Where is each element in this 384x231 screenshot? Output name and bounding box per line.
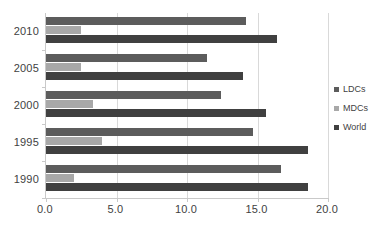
- bar-chart: LDCsMDCsWorld 0.05.010.015.020.020102005…: [0, 0, 384, 231]
- chart-legend: LDCsMDCsWorld: [334, 85, 368, 142]
- bar-group: [46, 54, 328, 84]
- gridline-x: [328, 13, 329, 198]
- legend-item-mdcs[interactable]: MDCs: [334, 104, 368, 113]
- legend-swatch-icon: [334, 87, 339, 92]
- bar-ldcs-1990: [46, 165, 281, 173]
- y-axis-label-1995: 1995: [0, 136, 39, 148]
- legend-item-world[interactable]: World: [334, 123, 368, 132]
- y-axis-label-2005: 2005: [0, 62, 39, 74]
- x-axis-label: 0.0: [25, 203, 65, 215]
- y-axis-label-2000: 2000: [0, 99, 39, 111]
- plot-area: [45, 13, 329, 199]
- y-axis-tick: [42, 161, 46, 162]
- chart-caption: [6, 222, 378, 231]
- x-axis-label: 5.0: [96, 203, 136, 215]
- bar-group: [46, 91, 328, 121]
- bar-mdcs-1995: [46, 137, 102, 145]
- bar-world-2005: [46, 72, 243, 80]
- y-axis-label-1990: 1990: [0, 173, 39, 185]
- bar-group: [46, 128, 328, 158]
- legend-swatch-icon: [334, 125, 339, 130]
- x-axis-tick: [328, 198, 329, 202]
- x-axis-tick: [117, 198, 118, 202]
- y-axis-tick: [42, 124, 46, 125]
- x-axis-tick: [258, 198, 259, 202]
- legend-label: World: [343, 123, 366, 132]
- bar-world-2010: [46, 35, 277, 43]
- legend-swatch-icon: [334, 106, 339, 111]
- bar-world-1990: [46, 183, 308, 191]
- bar-group: [46, 165, 328, 195]
- bar-world-2000: [46, 109, 266, 117]
- bar-ldcs-1995: [46, 128, 253, 136]
- x-axis-tick: [187, 198, 188, 202]
- x-axis-label: 10.0: [166, 203, 206, 215]
- y-axis-tick: [42, 50, 46, 51]
- x-axis-tick: [46, 198, 47, 202]
- bar-mdcs-2000: [46, 100, 93, 108]
- bar-mdcs-2005: [46, 63, 81, 71]
- x-axis-label: 20.0: [307, 203, 347, 215]
- y-axis-tick: [42, 87, 46, 88]
- legend-label: LDCs: [343, 85, 366, 94]
- y-axis-tick: [42, 198, 46, 199]
- bar-mdcs-2010: [46, 26, 81, 34]
- y-axis-label-2010: 2010: [0, 25, 39, 37]
- bar-ldcs-2010: [46, 17, 246, 25]
- legend-label: MDCs: [343, 104, 368, 113]
- bar-ldcs-2000: [46, 91, 221, 99]
- bar-world-1995: [46, 146, 308, 154]
- legend-item-ldcs[interactable]: LDCs: [334, 85, 368, 94]
- bar-mdcs-1990: [46, 174, 74, 182]
- bar-group: [46, 17, 328, 47]
- x-axis-label: 15.0: [237, 203, 277, 215]
- bar-ldcs-2005: [46, 54, 207, 62]
